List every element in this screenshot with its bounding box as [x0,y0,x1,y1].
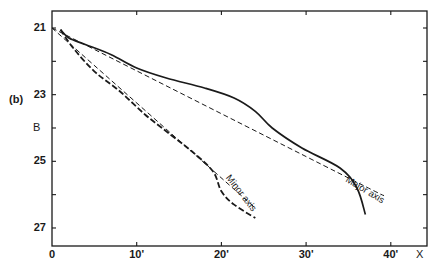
y-axis-label: B [33,121,40,133]
x-tick-label: 10' [122,248,152,260]
major-axis-profile-line [61,30,366,215]
x-tick-label: 40' [376,248,406,260]
plot-frame [52,11,427,246]
x-tick-label: 20' [206,248,236,260]
major-axis-fit-line [52,28,384,196]
axis-ticks [52,11,427,246]
x-axis-label: X [416,248,423,260]
y-tick-label: 27 [16,221,46,233]
x-tick-label: 30' [291,248,321,260]
chart-canvas [0,0,434,266]
y-tick-label: 25 [16,154,46,166]
y-tick-label: 23 [16,88,46,100]
data-series [52,28,384,218]
x-tick-label: 0 [37,248,67,260]
minor-axis-profile-line [61,30,256,218]
y-tick-label: 21 [16,21,46,33]
